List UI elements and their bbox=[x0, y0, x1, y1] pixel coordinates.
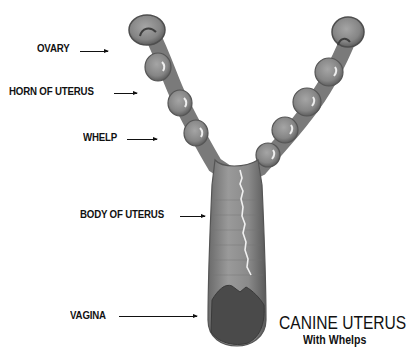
label-ovary: OVARY bbox=[37, 42, 69, 54]
arrow-vagina bbox=[119, 316, 197, 317]
label-horn-of-uterus: HORN OF UTERUS bbox=[9, 85, 94, 97]
diagram-canvas: OVARY HORN OF UTERUS WHELP BODY OF UTERU… bbox=[0, 0, 410, 358]
left-uterine-horn bbox=[129, 15, 230, 175]
arrow-whelp bbox=[127, 139, 157, 140]
label-whelp: WHELP bbox=[83, 131, 117, 143]
arrow-horn-of-uterus bbox=[114, 93, 137, 94]
right-uterine-horn bbox=[245, 17, 364, 175]
label-body-of-uterus: BODY OF UTERUS bbox=[80, 208, 164, 220]
arrow-ovary bbox=[80, 51, 108, 52]
uterine-body bbox=[208, 160, 266, 346]
arrow-body-of-uterus bbox=[180, 216, 205, 217]
label-vagina: VAGINA bbox=[70, 309, 106, 321]
figure-title: CANINE UTERUS bbox=[279, 313, 406, 333]
figure-subtitle: With Whelps bbox=[303, 334, 366, 347]
